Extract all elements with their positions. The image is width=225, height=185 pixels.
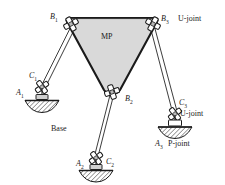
leg-1 <box>41 26 76 90</box>
label-base: Base <box>51 125 67 133</box>
label-b3: B3 <box>161 15 169 25</box>
label-c1: C1 <box>29 72 37 82</box>
label-a3-note: P-joint <box>168 140 190 148</box>
p-joint-block-3 <box>169 120 182 126</box>
ground-support-2 <box>79 171 113 183</box>
label-a2: A2 <box>76 160 84 170</box>
ground-support-3 <box>158 127 192 139</box>
label-a3: A3 <box>155 140 163 150</box>
label-c3: C3 <box>179 99 187 109</box>
moving-platform <box>66 18 157 94</box>
leg-2 <box>94 95 114 159</box>
base-assembly-1 <box>25 77 59 112</box>
label-c2: C2 <box>106 158 114 168</box>
label-c3-note: U-joint <box>180 110 203 118</box>
p-joint-block-2 <box>90 165 102 170</box>
label-b2: B2 <box>125 95 133 105</box>
label-b1: B1 <box>50 13 58 23</box>
label-a1: A1 <box>16 89 24 99</box>
label-b3-note: U-joint <box>178 15 201 23</box>
leg-3 <box>150 25 178 114</box>
ground-support-1 <box>25 101 59 113</box>
p-joint-block-1 <box>36 95 48 100</box>
parallel-manipulator-diagram: B1 B3 U-joint B2 MP Base C1 A1 C2 A2 C3 … <box>0 0 225 185</box>
label-moving-platform: MP <box>101 33 113 41</box>
